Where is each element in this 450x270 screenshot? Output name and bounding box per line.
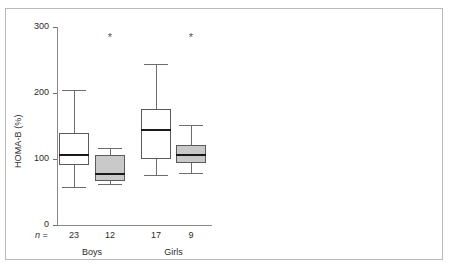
box-plot-boys-open <box>59 133 89 165</box>
whisker-upper <box>110 148 111 155</box>
y-tick-mark <box>53 225 57 226</box>
n-value-girls: 17 <box>143 230 169 240</box>
significance-asterisk: * <box>184 33 198 41</box>
box-plot-girls-open <box>141 109 171 159</box>
y-tick-label: 200 <box>23 87 49 97</box>
whisker-cap-upper <box>144 64 168 65</box>
panel-homa-s: HOMA-S (%) 010020030040023*1217*9n =Boys… <box>225 0 450 270</box>
group-label-boys: Boys <box>62 247 122 257</box>
x-axis-line <box>57 225 212 226</box>
median-line <box>95 173 125 175</box>
y-tick-label: 300 <box>23 21 49 31</box>
n-value-girls: 9 <box>178 230 204 240</box>
whisker-upper <box>74 90 75 133</box>
whisker-cap-upper <box>62 90 86 91</box>
y-tick-mark <box>53 93 57 94</box>
figure-container: HOMA-B (%) 010020030023*1217*9n =BoysGir… <box>0 0 450 270</box>
whisker-cap-lower <box>144 175 168 176</box>
n-equals-label: n = <box>35 230 48 240</box>
whisker-lower <box>191 163 192 173</box>
group-label-girls: Girls <box>144 247 204 257</box>
median-line <box>141 129 171 131</box>
whisker-upper <box>191 125 192 145</box>
whisker-upper <box>156 64 157 109</box>
significance-asterisk: * <box>103 33 117 41</box>
n-value-boys: 12 <box>97 230 123 240</box>
median-line <box>59 154 89 156</box>
whisker-cap-lower <box>98 184 122 185</box>
y-tick-mark <box>53 159 57 160</box>
whisker-lower <box>74 165 75 187</box>
whisker-lower <box>156 159 157 175</box>
n-value-boys: 23 <box>61 230 87 240</box>
y-tick-mark <box>53 27 57 28</box>
whisker-cap-upper <box>179 125 203 126</box>
y-tick-label: 0 <box>23 219 49 229</box>
y-axis-line <box>57 27 58 225</box>
y-tick-label: 100 <box>23 153 49 163</box>
y-axis-title-left: HOMA-B (%) <box>13 115 23 169</box>
box-plot-boys-filled <box>95 155 125 181</box>
panel-homa-b: HOMA-B (%) 010020030023*1217*9n =BoysGir… <box>0 0 225 270</box>
whisker-cap-lower <box>179 173 203 174</box>
median-line <box>176 154 206 156</box>
whisker-cap-upper <box>98 148 122 149</box>
whisker-cap-lower <box>62 187 86 188</box>
